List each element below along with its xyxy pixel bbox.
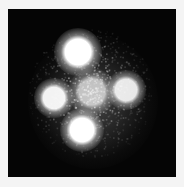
lensed-quasar-image: [8, 9, 176, 177]
light-source-right: [106, 70, 146, 110]
light-source-bottom: [60, 108, 104, 152]
